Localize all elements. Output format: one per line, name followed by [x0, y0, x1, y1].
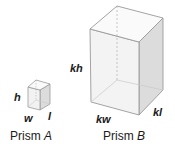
prism-b-length-label: kl [153, 106, 163, 118]
prism-a [28, 80, 50, 110]
prisms-diagram: h w l Prism A kh kw kl Prism B [0, 0, 175, 150]
prism-b-caption: Prism B [103, 129, 145, 143]
prism-a-width-label: w [24, 112, 34, 124]
prism-a-length-label: l [48, 110, 52, 122]
prism-b-width-label: kw [96, 113, 112, 125]
prism-b-height-label: kh [70, 62, 83, 74]
prism-a-height-label: h [14, 91, 21, 103]
prism-a-caption: Prism A [10, 129, 52, 143]
prism-b [90, 6, 163, 115]
